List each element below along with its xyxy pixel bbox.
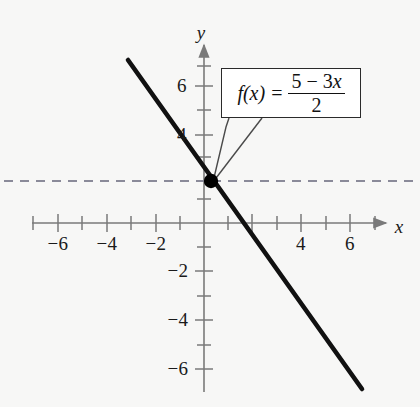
y-tick-label-6: 6 — [177, 75, 187, 97]
function-formula: f(x) = 5 − 3x 2 — [222, 69, 360, 117]
numerator-minus: − — [306, 70, 317, 92]
graph-figure: −6 −4 −2 4 6 6 4 −2 −4 −6 y x f(x) = 5 −… — [0, 0, 420, 407]
y-tick-label-4: 4 — [177, 124, 187, 146]
x-tick-label-neg4: −4 — [96, 233, 117, 255]
numerator-five: 5 — [291, 70, 301, 92]
marked-point — [204, 174, 218, 188]
coordinate-plane — [0, 0, 420, 407]
x-tick-label-neg6: −6 — [47, 233, 68, 255]
x-axis-label: x — [395, 216, 403, 238]
formula-fx: f(x) — [237, 82, 265, 105]
y-axis-label: y — [197, 22, 205, 44]
formula-fraction: 5 − 3x 2 — [288, 71, 344, 115]
numerator-x: x — [333, 70, 342, 92]
callout-pointer — [213, 118, 262, 182]
formula-numerator: 5 − 3x — [288, 71, 344, 93]
y-tick-label-neg2: −2 — [167, 260, 188, 282]
function-callout-box: f(x) = 5 − 3x 2 — [221, 68, 361, 118]
x-tick-label-4: 4 — [296, 233, 306, 255]
x-tick-label-6: 6 — [345, 233, 355, 255]
numerator-three: 3 — [323, 70, 333, 92]
x-tick-label-neg2: −2 — [145, 233, 166, 255]
y-tick-label-neg4: −4 — [167, 309, 188, 331]
formula-denominator: 2 — [312, 94, 322, 115]
y-tick-label-neg6: −6 — [167, 358, 188, 380]
formula-equals: = — [269, 82, 284, 105]
